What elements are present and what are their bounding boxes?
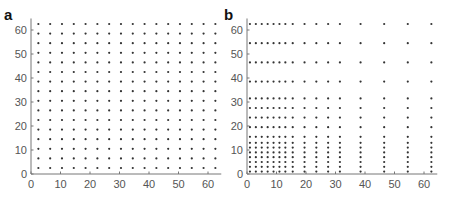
data-point	[96, 23, 98, 25]
data-point	[108, 71, 110, 73]
data-point	[255, 117, 257, 119]
data-point	[383, 81, 385, 83]
data-point	[108, 61, 110, 63]
data-point	[37, 100, 39, 102]
data-point	[278, 171, 280, 173]
data-point	[359, 23, 361, 25]
data-point	[214, 138, 216, 140]
data-point	[84, 157, 86, 159]
data-point	[84, 52, 86, 54]
data-point	[255, 147, 257, 149]
data-point	[284, 147, 286, 149]
data-point	[303, 166, 305, 168]
data-point	[37, 109, 39, 111]
data-point	[73, 33, 75, 35]
data-point	[73, 42, 75, 44]
data-point	[132, 119, 134, 121]
data-point	[49, 33, 51, 35]
data-point	[359, 81, 361, 83]
data-point	[249, 171, 251, 173]
data-point	[272, 171, 274, 173]
data-point	[383, 126, 385, 128]
data-point	[61, 61, 63, 63]
data-point	[191, 157, 193, 159]
y-tick-label: 0	[21, 168, 27, 180]
data-point	[267, 117, 269, 119]
y-tick-label: 0	[237, 168, 243, 180]
data-point	[339, 107, 341, 109]
data-point	[167, 23, 169, 25]
data-point	[179, 23, 181, 25]
data-point	[315, 142, 317, 144]
data-point	[430, 147, 432, 149]
data-point	[272, 23, 274, 25]
data-point	[407, 23, 409, 25]
data-point	[267, 151, 269, 153]
y-tick-label: 10	[15, 144, 27, 156]
data-point	[292, 161, 294, 163]
panel-a-scatter: a 01020304050600102030405060	[4, 6, 221, 190]
data-point	[303, 97, 305, 99]
data-point	[407, 107, 409, 109]
data-point	[202, 71, 204, 73]
y-tick-label: 10	[231, 144, 243, 156]
data-point	[261, 171, 263, 173]
data-point	[49, 109, 51, 111]
data-point	[167, 90, 169, 92]
data-point	[37, 138, 39, 140]
data-point	[61, 138, 63, 140]
data-point	[339, 97, 341, 99]
y-tick-label: 20	[231, 120, 243, 132]
data-point	[430, 117, 432, 119]
data-point	[84, 61, 86, 63]
data-point	[143, 129, 145, 131]
data-point	[120, 167, 122, 169]
data-point	[303, 23, 305, 25]
data-point	[292, 126, 294, 128]
x-tick-label: 50	[388, 178, 400, 190]
data-point	[284, 97, 286, 99]
data-point	[191, 52, 193, 54]
data-point	[255, 151, 257, 153]
data-point	[327, 142, 329, 144]
data-point	[255, 107, 257, 109]
data-point	[284, 161, 286, 163]
data-point	[359, 42, 361, 44]
data-point	[214, 71, 216, 73]
data-point	[303, 161, 305, 163]
y-tick-label: 40	[231, 72, 243, 84]
data-point	[249, 161, 251, 163]
data-point	[120, 42, 122, 44]
data-point	[49, 81, 51, 83]
data-point	[167, 100, 169, 102]
data-point	[191, 119, 193, 121]
data-point	[132, 23, 134, 25]
data-point	[292, 166, 294, 168]
data-point	[249, 136, 251, 138]
data-point	[284, 136, 286, 138]
data-point	[292, 156, 294, 158]
data-point	[339, 61, 341, 63]
data-point	[202, 138, 204, 140]
data-point	[167, 119, 169, 121]
data-point	[278, 156, 280, 158]
data-point	[383, 23, 385, 25]
data-point	[84, 148, 86, 150]
y-tick-label: 30	[231, 96, 243, 108]
data-point	[191, 23, 193, 25]
data-point	[132, 42, 134, 44]
data-point	[284, 81, 286, 83]
data-point	[120, 138, 122, 140]
data-point	[120, 71, 122, 73]
data-point	[359, 97, 361, 99]
data-point	[108, 167, 110, 169]
data-point	[315, 97, 317, 99]
data-point	[84, 167, 86, 169]
data-point	[407, 151, 409, 153]
data-point	[284, 107, 286, 109]
data-point	[37, 129, 39, 131]
data-point	[179, 138, 181, 140]
data-point	[96, 90, 98, 92]
data-point	[359, 126, 361, 128]
data-point	[155, 167, 157, 169]
